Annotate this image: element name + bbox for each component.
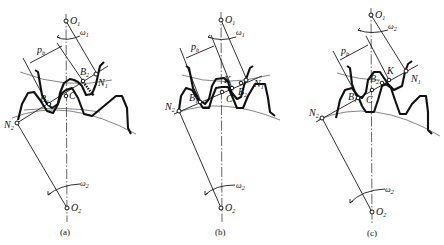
svg-text:B2: B2 (370, 73, 379, 85)
point-o1 (369, 13, 373, 17)
svg-text:N1: N1 (253, 78, 264, 90)
svg-text:N2: N2 (164, 101, 175, 113)
panel-c: O1 O2 ω2 ω2 pb N1 N2 B1 B2 K C (c) (308, 8, 440, 238)
point-o1 (219, 18, 223, 22)
svg-text:pb: pb (190, 41, 199, 53)
omega2-arrow-icon (205, 191, 208, 195)
svg-text:B1: B1 (40, 93, 49, 105)
svg-text:C: C (366, 94, 373, 105)
point-c (64, 94, 68, 98)
omega2-arrow-icon (48, 191, 51, 195)
svg-text:O1: O1 (225, 14, 235, 26)
svg-text:B2: B2 (238, 86, 247, 98)
svg-text:O2: O2 (376, 206, 386, 218)
omega2-arc (48, 184, 80, 195)
svg-text:ω2: ω2 (236, 181, 245, 191)
pb-dimension (30, 46, 62, 63)
center-line (66, 14, 67, 222)
point-b2 (239, 81, 243, 85)
addendum-circle-2 (176, 106, 280, 120)
omega1-arrow-icon (358, 28, 361, 31)
point-n1 (404, 69, 408, 73)
omega1-arrow-icon (208, 35, 211, 38)
point-c (220, 90, 224, 94)
svg-text:pb: pb (340, 45, 349, 57)
svg-text:C: C (69, 90, 76, 101)
svg-text:ω2: ω2 (80, 179, 89, 189)
omega1-arrow-icon (57, 35, 60, 38)
point-o1 (64, 19, 68, 23)
panel-b: O1 O2 ω1 ω2 pb N1 N2 B1 B2 K C (b) (164, 12, 280, 237)
addendum-circle-2 (12, 110, 136, 134)
point-b2 (81, 79, 85, 83)
svg-text:O1: O1 (375, 9, 385, 21)
svg-text:ω1: ω1 (80, 28, 89, 38)
center-line (371, 8, 372, 225)
o2-n2-line (17, 123, 67, 208)
svg-text:pb: pb (36, 44, 45, 56)
svg-text:ω2: ω2 (388, 22, 397, 32)
o2-n2-line (179, 111, 221, 208)
point-n2 (177, 109, 181, 113)
caption-b: (b) (215, 227, 226, 237)
omega1-arc (358, 30, 388, 33)
svg-text:K: K (386, 65, 395, 76)
omega2-arc (205, 185, 235, 195)
svg-text:N1: N1 (97, 77, 108, 89)
svg-text:N2: N2 (3, 119, 14, 131)
point-n1 (94, 72, 98, 76)
svg-text:C: C (226, 93, 233, 104)
o2-n2-line (322, 118, 372, 212)
svg-text:ω1: ω1 (236, 28, 245, 38)
point-b1 (198, 100, 202, 104)
point-o2 (219, 206, 223, 210)
point-n2 (320, 116, 324, 120)
point-c (370, 88, 374, 92)
svg-text:O2: O2 (225, 202, 235, 214)
center-line (221, 12, 222, 222)
point-n2 (15, 121, 19, 125)
caption-c: (c) (367, 228, 377, 238)
svg-text:N1: N1 (410, 73, 421, 85)
panel-a: O1 O2 ω1 ω2 pb N1 N2 B1 B2 C (a) (3, 14, 136, 237)
caption-a: (a) (60, 227, 70, 237)
svg-text:O1: O1 (70, 15, 80, 27)
svg-text:B2: B2 (80, 66, 89, 78)
svg-text:N2: N2 (308, 107, 319, 119)
svg-text:O2: O2 (71, 202, 81, 214)
point-k (230, 86, 234, 90)
point-n1 (244, 78, 248, 82)
omega2-arc (350, 189, 385, 203)
point-b2 (380, 81, 384, 85)
point-o2 (370, 210, 374, 214)
svg-text:ω2: ω2 (385, 185, 394, 195)
svg-text:K: K (223, 74, 232, 85)
gear-meshing-diagram: O1 O2 ω1 ω2 pb N1 N2 B1 B2 C (a) (0, 0, 444, 245)
point-k (387, 78, 391, 82)
point-o2 (65, 206, 69, 210)
